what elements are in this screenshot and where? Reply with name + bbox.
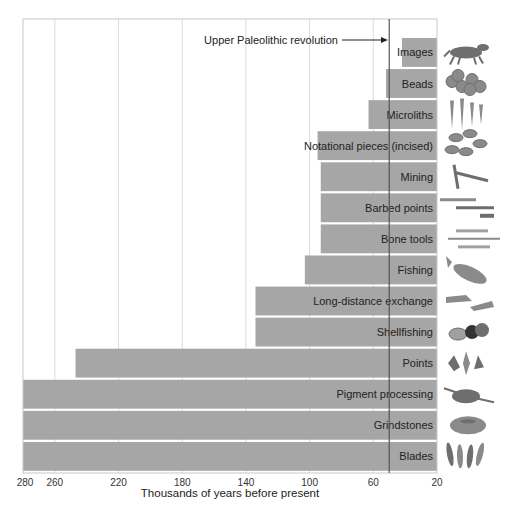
mining-pick-icon xyxy=(454,165,488,189)
x-tick-label: 60 xyxy=(368,477,380,488)
fish-icon xyxy=(446,256,489,288)
bars: ImagesBeadsMicrolithsNotational pieces (… xyxy=(23,38,437,471)
crab-and-shell-icon xyxy=(449,323,489,340)
blades-icon xyxy=(445,442,486,469)
bar-label: Long-distance exchange xyxy=(313,295,433,307)
bar-row: Long-distance exchange xyxy=(255,287,437,316)
annotation-text: Upper Paleolithic revolution xyxy=(204,34,338,46)
bar-row: Grindstones xyxy=(23,411,437,440)
bar-label: Barbed points xyxy=(365,202,433,214)
pigment-bowl-icon xyxy=(444,388,494,403)
bar-row: Blades xyxy=(23,442,437,471)
grindstone-icon xyxy=(450,416,486,434)
bar-row: Barbed points xyxy=(321,193,437,222)
x-tick-label: 260 xyxy=(47,477,64,488)
x-tick-label: 280 xyxy=(17,477,34,488)
bar-label: Shellfishing xyxy=(377,326,433,338)
x-axis-label: Thousands of years before present xyxy=(141,487,320,499)
bar-row: Pigment processing xyxy=(23,380,437,409)
microliths-icon xyxy=(450,99,483,131)
bar-row: Microliths xyxy=(369,100,437,129)
bar-label: Grindstones xyxy=(374,419,434,431)
illustrations xyxy=(440,44,500,469)
bar-label: Fishing xyxy=(398,264,433,276)
exchange-hands-icon xyxy=(446,295,494,311)
arrow-head-icon xyxy=(381,37,388,43)
bar-label: Notational pieces (incised) xyxy=(304,140,433,152)
bar-label: Pigment processing xyxy=(336,388,433,400)
horse-cave-painting-icon xyxy=(444,44,489,65)
bar-row: Images xyxy=(397,38,437,67)
stone-points-icon xyxy=(448,351,484,375)
bar-label: Images xyxy=(397,46,434,58)
bar-row: Beads xyxy=(386,69,437,98)
bar-row: Points xyxy=(76,349,437,378)
bar-label: Points xyxy=(402,357,433,369)
bar-row: Fishing xyxy=(305,256,437,285)
bar-label: Blades xyxy=(399,450,433,462)
x-tick-label: 220 xyxy=(110,477,127,488)
paleolithic-innovations-chart: ImagesBeadsMicrolithsNotational pieces (… xyxy=(0,0,520,509)
beads-icon xyxy=(446,70,486,96)
bar xyxy=(76,349,437,378)
x-tick-label: 20 xyxy=(431,477,443,488)
bone-tools-icon xyxy=(448,231,500,247)
bar-row: Notational pieces (incised) xyxy=(304,131,437,160)
bar-row: Bone tools xyxy=(321,224,437,253)
bar xyxy=(23,442,437,471)
bar-label: Microliths xyxy=(387,109,434,121)
incised-pieces-icon xyxy=(445,130,487,156)
bar-label: Mining xyxy=(401,171,433,183)
bar-label: Beads xyxy=(402,78,434,90)
bar-row: Shellfishing xyxy=(255,318,437,347)
bar-row: Mining xyxy=(321,162,437,191)
barbed-points-icon xyxy=(440,200,494,216)
upper-paleolithic-annotation: Upper Paleolithic revolution xyxy=(204,34,388,46)
